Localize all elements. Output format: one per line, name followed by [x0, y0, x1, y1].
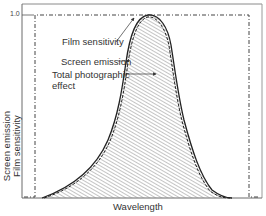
total-effect-line2: effect	[52, 80, 130, 91]
y-tick-label: 1.0	[10, 10, 20, 17]
screen-emission-annotation: Screen emission	[61, 56, 131, 67]
total-effect-line1: Total photographic	[52, 69, 130, 80]
spectral-response-diagram	[0, 0, 266, 216]
total-effect-annotation: Total photographic effect	[52, 69, 130, 91]
film-sensitivity-annotation: Film sensitivity	[62, 36, 124, 47]
y-axis-label: Screen emission Film sensitivity	[2, 96, 22, 196]
y-axis-label-line2: Film sensitivity	[12, 96, 22, 196]
x-axis-label: Wavelength	[113, 201, 163, 212]
